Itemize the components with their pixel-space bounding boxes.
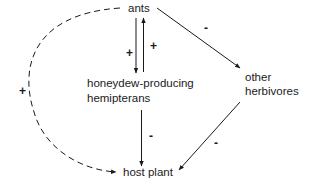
node-herbivores-line2: herbivores xyxy=(245,84,299,98)
sign-ants-to-hemipterans: + xyxy=(126,47,133,59)
node-hemipterans-line2: hemipterans xyxy=(87,91,150,105)
node-hemipterans-line1: honeydew-producing xyxy=(87,76,194,90)
sign-herbivores-to-plant: - xyxy=(214,137,218,149)
edge-ants-to-plant-dashed xyxy=(29,8,120,172)
node-herbivores-line1: other xyxy=(245,70,271,84)
edge-ants-to-herbivores xyxy=(157,8,240,68)
node-host-plant: host plant xyxy=(123,165,173,179)
node-ants: ants xyxy=(128,1,150,15)
sign-ants-to-herbivores: - xyxy=(204,22,208,34)
sign-ants-to-plant-indirect: + xyxy=(19,85,26,97)
sign-hemipterans-to-plant: - xyxy=(149,130,153,142)
sign-hemipterans-to-ants: + xyxy=(150,40,157,52)
edge-herbivores-to-plant xyxy=(179,102,240,170)
